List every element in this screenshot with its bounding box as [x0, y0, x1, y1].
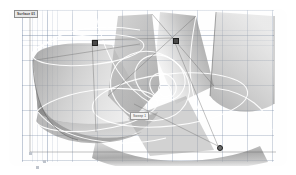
control-point-3[interactable] — [217, 145, 223, 151]
3d-viewport[interactable]: Surface 01 Sweep 1 — [0, 0, 296, 175]
object-title-badge[interactable]: Surface 01 — [14, 10, 38, 18]
geometry-scene[interactable] — [0, 0, 296, 175]
axis-point-3 — [36, 166, 39, 169]
control-point-1[interactable] — [92, 40, 98, 46]
object-label-chip[interactable]: Sweep 1 — [130, 112, 149, 120]
axis-point-1 — [29, 152, 32, 155]
application-window: Surface 01 Sweep 1 — [0, 0, 296, 175]
control-point-2[interactable] — [173, 38, 179, 44]
surface-right-cylinder — [210, 12, 274, 112]
axis-point-2 — [43, 160, 46, 163]
